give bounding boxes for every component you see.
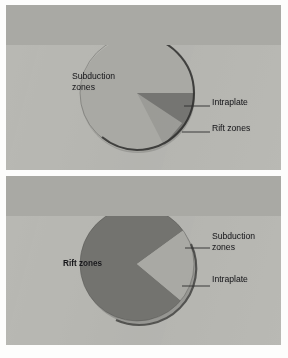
chart-label-magma-subduction: Subduction zones: [212, 231, 255, 252]
chart-label-historic-subduction: Subduction zones: [72, 71, 115, 92]
figure-container: Historic eruptions n = 5350 Subd: [0, 0, 288, 358]
chart-label-historic-intraplate: Intraplate: [212, 97, 248, 108]
chart-label-magma-rift: Rift zones: [63, 259, 102, 270]
chart-label-magma-intraplate: Intraplate: [212, 274, 248, 285]
chart-label-historic-rift: Rift zones: [212, 123, 250, 134]
panel-header-historic: [6, 5, 281, 45]
panel-historic-eruptions: Historic eruptions n = 5350 Subd: [6, 5, 281, 170]
panel-globally-erupted-magma: Globally erupted magma ~ 4km3/a: [6, 176, 281, 345]
panel-header-magma: [6, 176, 281, 216]
